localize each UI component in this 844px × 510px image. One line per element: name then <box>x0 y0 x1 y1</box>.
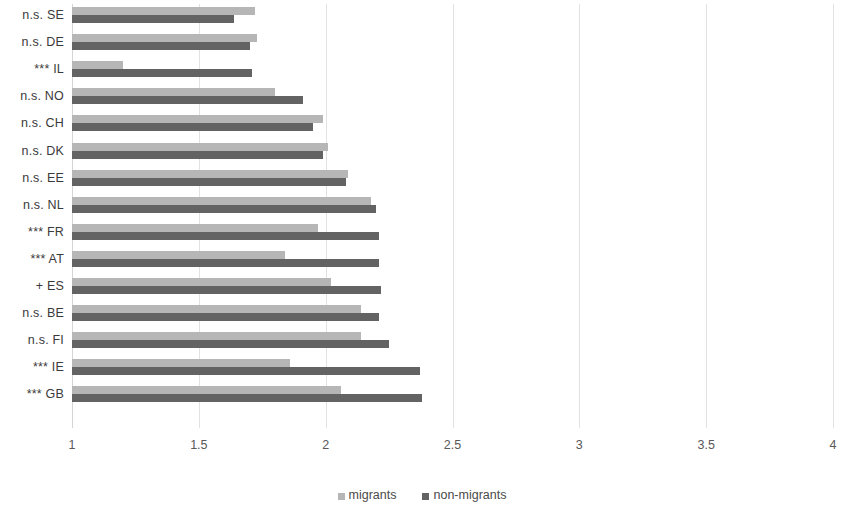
category-label: *** FR <box>0 225 64 239</box>
bar-non-migrants <box>72 367 420 375</box>
bar-migrants <box>72 332 361 340</box>
category-label: *** IE <box>0 360 64 374</box>
bar-row: *** IE <box>0 356 844 383</box>
x-tick-label: 2.5 <box>444 438 461 452</box>
bar-migrants <box>72 7 255 15</box>
category-label: + ES <box>0 279 64 293</box>
bar-non-migrants <box>72 286 381 294</box>
category-label: n.s. DK <box>0 144 64 158</box>
category-label: n.s. FI <box>0 333 64 347</box>
category-label: n.s. BE <box>0 306 64 320</box>
bar-non-migrants <box>72 69 252 77</box>
bar-non-migrants <box>72 259 379 267</box>
bar-row: n.s. CH <box>0 112 844 139</box>
category-label: *** IL <box>0 62 64 76</box>
bar-chart: n.s. SEn.s. DE*** ILn.s. NOn.s. CHn.s. D… <box>0 0 844 510</box>
category-label: n.s. SE <box>0 8 64 22</box>
bar-migrants <box>72 278 331 286</box>
bar-non-migrants <box>72 96 303 104</box>
bar-non-migrants <box>72 232 379 240</box>
category-label: n.s. EE <box>0 171 64 185</box>
x-tick-label: 3.5 <box>697 438 714 452</box>
bar-row: n.s. EE <box>0 167 844 194</box>
bar-non-migrants <box>72 340 389 348</box>
x-tick-label: 3 <box>576 438 583 452</box>
bar-row: n.s. DE <box>0 31 844 58</box>
x-tick-label: 1 <box>69 438 76 452</box>
category-label: n.s. DE <box>0 35 64 49</box>
legend-label: migrants <box>349 488 397 502</box>
bar-migrants <box>72 170 348 178</box>
bar-non-migrants <box>72 151 323 159</box>
category-label: n.s. CH <box>0 116 64 130</box>
x-tick-label: 1.5 <box>190 438 207 452</box>
bar-migrants <box>72 251 285 259</box>
x-tick-label: 4 <box>830 438 837 452</box>
bar-row: n.s. FI <box>0 329 844 356</box>
bar-migrants <box>72 197 371 205</box>
bar-non-migrants <box>72 313 379 321</box>
bar-non-migrants <box>72 15 234 23</box>
bar-migrants <box>72 34 257 42</box>
bar-non-migrants <box>72 123 313 131</box>
bar-row: n.s. BE <box>0 302 844 329</box>
bar-migrants <box>72 61 123 69</box>
bar-migrants <box>72 88 275 96</box>
bar-non-migrants <box>72 205 376 213</box>
category-label: n.s. NL <box>0 198 64 212</box>
bar-row: n.s. NO <box>0 85 844 112</box>
category-label: *** GB <box>0 387 64 401</box>
legend-label: non-migrants <box>433 488 506 502</box>
bar-row: *** FR <box>0 221 844 248</box>
bar-migrants <box>72 386 341 394</box>
bar-row: n.s. DK <box>0 140 844 167</box>
bar-migrants <box>72 359 290 367</box>
legend-item-migrants[interactable]: migrants <box>338 488 397 502</box>
bar-migrants <box>72 305 361 313</box>
bar-row: *** IL <box>0 58 844 85</box>
bar-non-migrants <box>72 178 346 186</box>
plot-area: n.s. SEn.s. DE*** ILn.s. NOn.s. CHn.s. D… <box>0 0 844 428</box>
chart-legend: migrantsnon-migrants <box>0 482 844 508</box>
x-axis: 11.522.533.54 <box>0 428 844 462</box>
bar-row: *** GB <box>0 383 844 410</box>
category-label: *** AT <box>0 252 64 266</box>
bar-row: + ES <box>0 275 844 302</box>
bar-row: n.s. NL <box>0 194 844 221</box>
bar-migrants <box>72 224 318 232</box>
legend-swatch-icon <box>422 493 429 500</box>
bar-row: n.s. SE <box>0 4 844 31</box>
bar-row: *** AT <box>0 248 844 275</box>
bar-migrants <box>72 143 328 151</box>
bar-non-migrants <box>72 394 422 402</box>
legend-item-non-migrants[interactable]: non-migrants <box>422 488 506 502</box>
category-label: n.s. NO <box>0 89 64 103</box>
x-tick-label: 2 <box>322 438 329 452</box>
bar-migrants <box>72 115 323 123</box>
bar-non-migrants <box>72 42 250 50</box>
legend-swatch-icon <box>338 493 345 500</box>
